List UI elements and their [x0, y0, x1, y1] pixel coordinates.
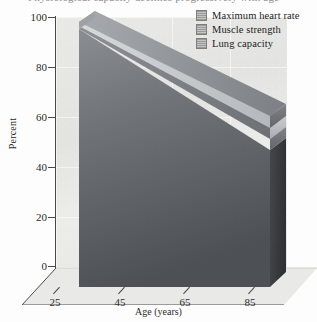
legend-item-muscle-strength[interactable]: Muscle strength [196, 23, 316, 36]
y-tick-label-40: 40 [21, 162, 47, 172]
y-tick-mark [48, 117, 55, 118]
chart-legend: Maximum heart rate Muscle strength Lung … [196, 9, 316, 51]
y-tick-label-100: 100 [21, 12, 47, 22]
plot-panel [56, 17, 287, 267]
legend-label: Maximum heart rate [212, 10, 300, 21]
y-axis-line [55, 16, 56, 268]
legend-swatch-icon [196, 24, 207, 35]
y-tick-mark [48, 217, 55, 218]
legend-item-lung-capacity[interactable]: Lung capacity [196, 37, 316, 50]
y-tick-mark [48, 167, 55, 168]
legend-item-maximum-heart-rate[interactable]: Maximum heart rate [196, 9, 316, 22]
y-tick-mark [48, 266, 55, 267]
chart-title-clipped: Physiological capacity declines progress… [0, 0, 317, 7]
legend-label: Lung capacity [212, 38, 273, 49]
y-tick-mark [48, 17, 55, 18]
y-tick-label-60: 60 [21, 112, 47, 122]
chart-root: Physiological capacity declines progress… [0, 0, 317, 322]
y-tick-mark [48, 67, 55, 68]
page-title: Physiological capacity declines progress… [28, 0, 279, 3]
y-tick-label-0: 0 [21, 261, 47, 271]
x-axis-title: Age (years) [0, 306, 317, 317]
legend-label: Muscle strength [212, 24, 281, 35]
legend-swatch-icon [196, 10, 207, 21]
y-axis-title: Percent [7, 104, 18, 164]
y-tick-label-20: 20 [21, 212, 47, 222]
y-tick-label-80: 80 [21, 62, 47, 72]
legend-swatch-icon [196, 38, 207, 49]
panel-texture [56, 17, 287, 267]
